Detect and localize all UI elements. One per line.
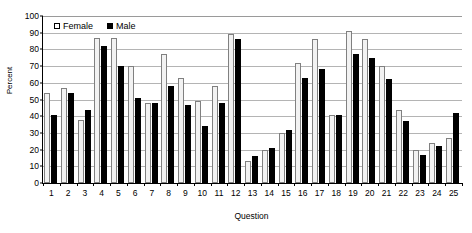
x-tick-mark (211, 183, 212, 186)
bar-male (436, 146, 442, 183)
bar-female (262, 150, 268, 183)
x-tick-label: 1 (49, 188, 54, 198)
bar-male (252, 156, 258, 183)
bar-group (328, 16, 345, 183)
bar-female (346, 31, 352, 183)
bar-male (269, 148, 275, 183)
bar-group (160, 16, 177, 183)
bar-group (395, 16, 412, 183)
x-tick-mark (127, 183, 128, 186)
x-tick-label: 13 (248, 188, 257, 198)
x-tick-label: 15 (281, 188, 290, 198)
x-tick-mark (244, 183, 245, 186)
bar-male (420, 155, 426, 183)
chart-legend: FemaleMale (54, 21, 136, 31)
bar-male (202, 126, 208, 183)
bar-male (185, 105, 191, 183)
bar-group (110, 16, 127, 183)
bar-group (445, 16, 462, 183)
bar-female (145, 103, 151, 183)
bar-female (61, 88, 67, 183)
x-tick-mark (378, 183, 379, 186)
bar-chart: Percent 0102030405060708090100 123456789… (0, 0, 472, 233)
bar-male (319, 69, 325, 183)
bar-female (178, 78, 184, 183)
x-tick-label: 4 (99, 188, 104, 198)
bar-male (386, 79, 392, 183)
bar-female (379, 66, 385, 183)
x-tick-label: 9 (183, 188, 188, 198)
x-tick-mark (412, 183, 413, 186)
x-tick-label: 10 (197, 188, 206, 198)
x-tick-mark (77, 183, 78, 186)
x-tick-mark (227, 183, 228, 186)
plot-area: 0102030405060708090100 12345678910111213… (42, 16, 462, 184)
bar-female (94, 38, 100, 183)
bars-layer (43, 16, 462, 183)
x-tick-label: 5 (116, 188, 121, 198)
y-tick-label: 70 (9, 61, 39, 71)
x-tick-mark (294, 183, 295, 186)
legend-item: Male (107, 21, 136, 31)
filled-square-swatch (107, 23, 113, 29)
bar-male (353, 54, 359, 183)
x-tick-mark (194, 183, 195, 186)
bar-male (135, 98, 141, 183)
y-tick-label: 0 (9, 178, 39, 188)
bar-male (235, 39, 241, 183)
x-tick-mark (445, 183, 446, 186)
bar-group (361, 16, 378, 183)
bar-group (428, 16, 445, 183)
bar-group (345, 16, 362, 183)
x-tick-mark (345, 183, 346, 186)
bar-group (261, 16, 278, 183)
bar-group (194, 16, 211, 183)
bar-group (177, 16, 194, 183)
bar-female (161, 54, 167, 183)
bar-male (168, 86, 174, 183)
bar-female (212, 86, 218, 183)
bar-group (93, 16, 110, 183)
x-tick-mark (395, 183, 396, 186)
y-tick-label: 30 (9, 128, 39, 138)
bar-group (43, 16, 60, 183)
x-tick-mark (311, 183, 312, 186)
open-square-swatch (54, 23, 60, 29)
y-tick-label: 40 (9, 111, 39, 121)
x-tick-mark (160, 183, 161, 186)
bar-female (312, 39, 318, 183)
bar-female (78, 120, 84, 183)
x-tick-label: 12 (231, 188, 240, 198)
bar-male (101, 46, 107, 183)
bar-female (245, 161, 251, 183)
legend-item: Female (54, 21, 93, 31)
bar-male (219, 103, 225, 183)
bar-male (51, 115, 57, 183)
legend-item-label: Male (116, 21, 136, 31)
y-tick-label: 50 (9, 95, 39, 105)
y-tick-label: 100 (9, 11, 39, 21)
bar-female (429, 143, 435, 183)
y-tick-label: 60 (9, 78, 39, 88)
x-tick-mark (428, 183, 429, 186)
bar-group (60, 16, 77, 183)
x-tick-mark (110, 183, 111, 186)
bar-male (152, 103, 158, 183)
bar-female (44, 93, 50, 183)
bar-group (127, 16, 144, 183)
x-tick-label: 2 (66, 188, 71, 198)
y-tick-label: 10 (9, 161, 39, 171)
bar-group (294, 16, 311, 183)
x-tick-label: 6 (133, 188, 138, 198)
bar-male (68, 93, 74, 183)
bar-female (279, 133, 285, 183)
x-tick-label: 8 (166, 188, 171, 198)
bar-group (278, 16, 295, 183)
x-tick-mark (261, 183, 262, 186)
x-tick-mark (278, 183, 279, 186)
x-tick-label: 25 (449, 188, 458, 198)
bar-male (403, 121, 409, 183)
y-tick-label: 80 (9, 44, 39, 54)
x-tick-mark (462, 183, 463, 186)
x-tick-label: 11 (215, 188, 224, 198)
